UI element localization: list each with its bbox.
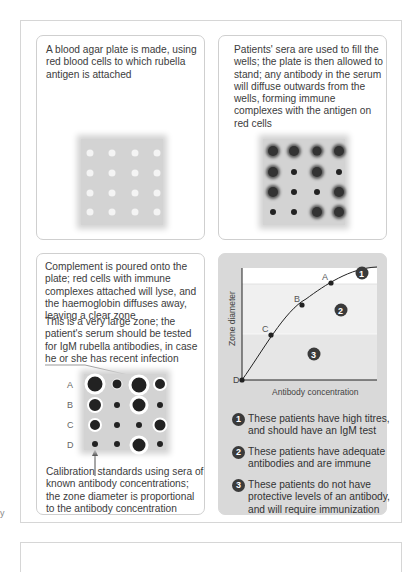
y-axis-label: Zone diameter [227,291,237,346]
number-badge-2-icon: 2 [232,446,245,459]
svg-text:1: 1 [359,269,364,279]
point-label-b: B [294,294,300,304]
legend-text-1: These patients have high titres, and sho… [248,413,398,438]
point-label-a: A [322,272,328,282]
svg-text:2: 2 [338,306,343,316]
svg-text:3: 3 [311,350,316,360]
legend-text-2: These patients have adequate antibodies … [248,446,398,471]
point-label-d: D [233,375,240,385]
number-badge-3-icon: 3 [232,479,245,492]
legend-text-3: These patients do not have protective le… [248,479,398,516]
x-axis-label: Antibody concentration [272,387,359,397]
number-badge-1-icon: 1 [232,413,245,426]
point-label-c: C [262,324,269,334]
